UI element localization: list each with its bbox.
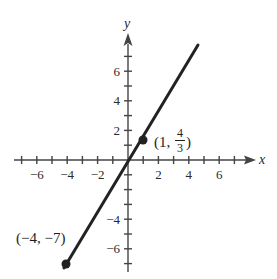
- x-axis-label: x: [258, 152, 266, 167]
- line-graph: x y −6 −4 −2 2 4 6 6 4 2 −4 −6 (−4, −7) …: [0, 0, 277, 279]
- y-tick-label: −6: [106, 241, 120, 256]
- point-marker-b: [139, 136, 148, 145]
- x-tick-label: 4: [186, 167, 193, 182]
- point-label-b: (1, 4 3 ): [154, 126, 191, 155]
- point-marker-a: [62, 260, 71, 269]
- x-tick-label: −4: [60, 167, 74, 182]
- svg-text:(1,: (1,: [154, 134, 170, 151]
- y-tick-label: 6: [114, 64, 121, 79]
- x-tick-label: −6: [30, 167, 44, 182]
- y-tick-label: 4: [114, 93, 121, 108]
- x-tick-label: 2: [155, 167, 162, 182]
- svg-text:): ): [186, 134, 191, 151]
- y-axis-label: y: [122, 16, 131, 31]
- svg-text:4: 4: [177, 126, 183, 140]
- x-tick-label: −2: [91, 167, 105, 182]
- svg-text:3: 3: [177, 141, 183, 155]
- x-tick-label: 6: [216, 167, 223, 182]
- point-label-a: (−4, −7): [16, 230, 65, 247]
- y-tick-label: −4: [106, 212, 120, 227]
- y-tick-label: 2: [114, 123, 121, 138]
